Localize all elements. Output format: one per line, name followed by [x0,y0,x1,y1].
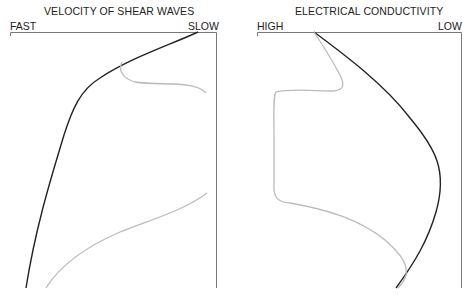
shear-wave-lower-branch-line [46,193,207,288]
shear-wave-axes [11,33,217,289]
shear-wave-profile-line [26,32,198,288]
shear-wave-upper-branch-line [121,62,206,93]
conductivity-profile-line [314,32,441,288]
diagram-canvas [0,0,467,300]
conductivity-zone-line [274,32,407,288]
conductivity-axes [258,33,462,289]
